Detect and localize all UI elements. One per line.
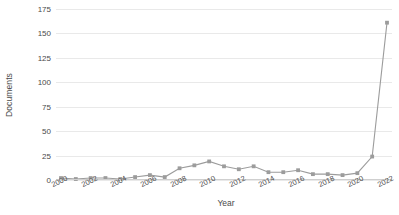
y-tick-label: 175 <box>10 5 56 14</box>
data-point-marker <box>296 168 300 172</box>
series-documents <box>56 9 392 180</box>
line-chart: Documents 0255075100125150175 2000200220… <box>0 0 399 215</box>
x-axis-line <box>56 179 392 180</box>
data-point-marker <box>252 164 256 168</box>
data-point-marker <box>281 170 285 174</box>
plot-area <box>56 9 392 180</box>
y-tick-label: 100 <box>10 78 56 87</box>
data-point-marker <box>385 21 389 25</box>
data-point-marker <box>341 173 345 177</box>
x-axis-title: Year <box>56 198 396 208</box>
y-tick-label: 50 <box>10 127 56 136</box>
series-line <box>61 23 387 179</box>
data-point-marker <box>192 163 196 167</box>
y-tick-label: 150 <box>10 29 56 38</box>
data-point-marker <box>178 166 182 170</box>
data-point-marker <box>311 172 315 176</box>
y-tick-label: 75 <box>10 102 56 111</box>
data-point-marker <box>207 160 211 164</box>
data-point-marker <box>222 164 226 168</box>
data-point-marker <box>370 155 374 159</box>
data-point-marker <box>237 167 241 171</box>
y-axis-tick-labels: 0255075100125150175 <box>0 9 56 180</box>
y-tick-label: 125 <box>10 53 56 62</box>
y-tick-label: 25 <box>10 151 56 160</box>
